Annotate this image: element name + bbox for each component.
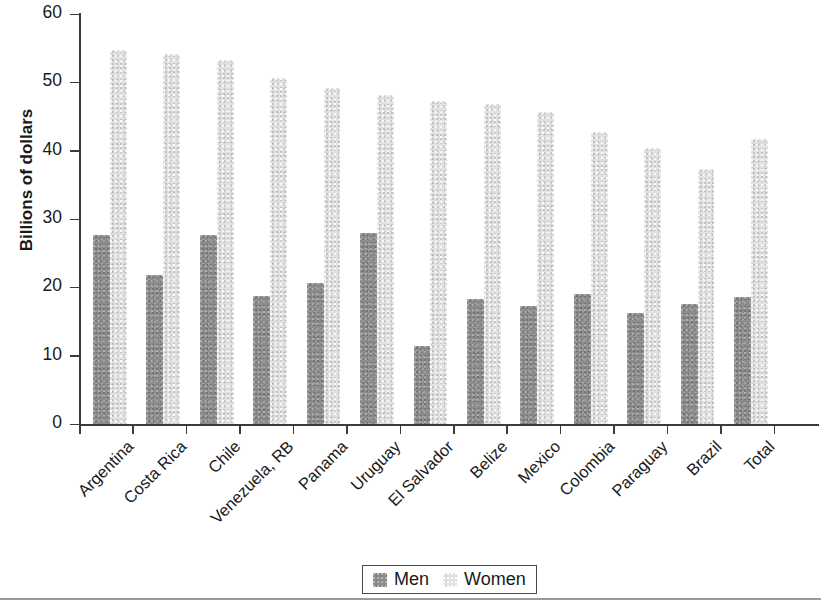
bar-women-belize xyxy=(484,104,501,424)
bar-men-venezuela-rb xyxy=(253,296,270,424)
men-swatch-icon xyxy=(373,573,387,587)
x-tick xyxy=(79,425,81,434)
bar-men-argentina xyxy=(93,235,110,424)
y-tick-label: 20 xyxy=(2,275,62,296)
bar-women-venezuela-rb xyxy=(270,78,287,424)
bar-women-uruguay xyxy=(377,95,394,424)
bar-women-el-salvador xyxy=(430,101,447,424)
bar-men-chile xyxy=(200,235,217,424)
bar-women-colombia xyxy=(591,132,608,424)
bar-chart-figure: Billions of dollars 0102030405060 Argent… xyxy=(0,0,821,600)
bar-men-total xyxy=(734,297,751,424)
bar-women-costa-rica xyxy=(163,54,180,424)
y-tick xyxy=(70,150,79,152)
category-label-text: Mexico xyxy=(514,437,564,487)
y-tick xyxy=(70,82,79,84)
y-tick xyxy=(70,14,79,16)
y-tick-label: 30 xyxy=(2,207,62,228)
bar-women-chile xyxy=(217,60,234,424)
y-axis-title: Billions of dollars xyxy=(17,80,37,280)
y-tick-label: 10 xyxy=(2,344,62,365)
legend-item-women: Women xyxy=(443,569,526,590)
y-tick-label: 0 xyxy=(2,412,62,433)
category-label-text: Brazil xyxy=(682,437,725,480)
y-tick-label: 40 xyxy=(2,139,62,160)
y-tick xyxy=(70,219,79,221)
chart-legend: Men Women xyxy=(362,565,537,594)
y-tick xyxy=(70,424,79,426)
legend-label-women: Women xyxy=(464,569,526,590)
category-label-text: Chile xyxy=(204,437,244,477)
bar-women-paraguay xyxy=(644,148,661,424)
bar-women-argentina xyxy=(110,50,127,424)
legend-item-men: Men xyxy=(373,569,429,590)
plot-area xyxy=(79,14,819,424)
category-label-text: Panama xyxy=(294,437,351,494)
y-tick xyxy=(70,355,79,357)
category-label-text: Belize xyxy=(466,437,511,482)
y-tick-label: 60 xyxy=(2,2,62,23)
legend-label-men: Men xyxy=(394,569,429,590)
bar-women-mexico xyxy=(537,112,554,424)
bar-women-panama xyxy=(324,88,341,424)
bar-men-uruguay xyxy=(360,233,377,424)
y-tick xyxy=(70,287,79,289)
women-swatch-icon xyxy=(443,573,457,587)
y-tick-label: 50 xyxy=(2,70,62,91)
category-label-text: Total xyxy=(740,437,778,475)
bar-women-brazil xyxy=(698,169,715,424)
bar-women-total xyxy=(751,139,768,424)
